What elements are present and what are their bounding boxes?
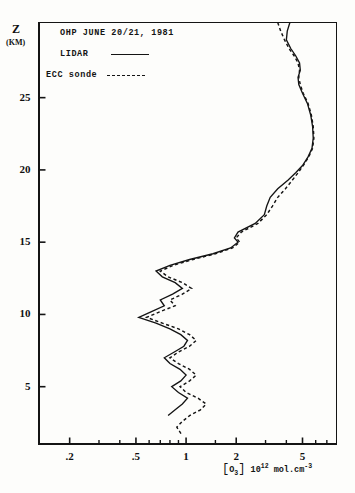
y-tick-label: 25 (5, 91, 31, 103)
series-line-ecc-sonde (147, 23, 314, 436)
profile-plot (0, 0, 355, 493)
x-tick-label: 1 (171, 450, 201, 462)
y-tick-label: 10 (5, 307, 31, 319)
x-axis-caption: [O3] 1012 mol.cm-3 (222, 462, 312, 477)
y-tick-label: 20 (5, 163, 31, 175)
x-tick-label: .2 (55, 450, 85, 462)
x-tick-label: 5 (288, 450, 318, 462)
units-exp: -3 (304, 463, 312, 470)
units-label: mol.cm (274, 465, 305, 475)
y-tick-label: 15 (5, 235, 31, 247)
y-tick-label: 5 (5, 380, 31, 392)
figure-canvas: Z (KM) OHP JUNE 20/21, 1981 LIDAR ECC so… (0, 0, 355, 493)
series-line-lidar (139, 23, 313, 416)
x-tick-label: 2 (221, 450, 251, 462)
factor-label: 10 (251, 465, 261, 475)
x-tick-label: .5 (121, 450, 151, 462)
factor-exp: 12 (261, 463, 269, 470)
